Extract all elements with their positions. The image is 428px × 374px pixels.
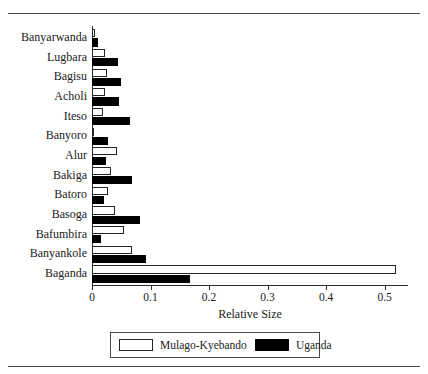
bar-mulago-kyebando-iteso <box>92 108 103 116</box>
bar-mulago-kyebando-banyarwanda <box>92 29 95 37</box>
bar-uganda-batoro <box>92 196 104 204</box>
category-label-basoga: Basoga <box>1 208 87 221</box>
top-rule <box>8 13 420 14</box>
x-tick-label: 0.1 <box>131 291 171 304</box>
x-tick <box>151 285 152 290</box>
bar-uganda-baganda <box>92 275 190 283</box>
bar-mulago-kyebando-acholi <box>92 88 105 96</box>
x-tick <box>92 285 93 290</box>
category-label-alur: Alur <box>1 149 87 162</box>
x-tick-label: 0.4 <box>306 291 346 304</box>
bar-mulago-kyebando-banyoro <box>92 128 94 136</box>
category-label-banyankole: Banyankole <box>1 247 87 260</box>
x-tick-label: 0.2 <box>189 291 229 304</box>
bar-mulago-kyebando-alur <box>92 147 117 155</box>
category-label-bafumbira: Bafumbira <box>1 228 87 241</box>
bottom-rule <box>8 366 420 367</box>
bar-uganda-banyankole <box>92 255 146 263</box>
bar-uganda-iteso <box>92 117 130 125</box>
bar-mulago-kyebando-banyankole <box>92 246 132 254</box>
bar-uganda-alur <box>92 157 106 165</box>
bar-mulago-kyebando-batoro <box>92 187 108 195</box>
bar-uganda-basoga <box>92 216 140 224</box>
category-label-baganda: Baganda <box>1 267 87 280</box>
legend-item-uganda: Uganda <box>247 339 332 351</box>
bar-mulago-kyebando-lugbara <box>92 49 105 57</box>
figure-bar-chart: 00.10.20.30.40.5 BanyarwandaLugbaraBagis… <box>0 0 428 374</box>
x-tick-label: 0.5 <box>365 291 405 304</box>
legend-item-mulago-kyebando: Mulago-Kyebando <box>111 339 247 351</box>
category-label-iteso: Iteso <box>1 110 87 123</box>
category-label-banyoro: Banyoro <box>1 129 87 142</box>
category-label-batoro: Batoro <box>1 188 87 201</box>
x-tick <box>209 285 210 290</box>
bar-mulago-kyebando-basoga <box>92 206 115 214</box>
bar-uganda-lugbara <box>92 58 118 66</box>
legend-label: Uganda <box>296 339 332 351</box>
x-axis-label: Relative Size <box>92 307 408 322</box>
bar-mulago-kyebando-bafumbira <box>92 226 124 234</box>
category-label-acholi: Acholi <box>1 90 87 103</box>
legend: Mulago-KyebandoUganda <box>110 332 320 358</box>
bar-mulago-kyebando-bakiga <box>92 167 111 175</box>
bar-uganda-bafumbira <box>92 235 101 243</box>
bar-uganda-bagisu <box>92 78 121 86</box>
category-label-lugbara: Lugbara <box>1 51 87 64</box>
bar-mulago-kyebando-baganda <box>92 265 396 273</box>
category-label-bagisu: Bagisu <box>1 70 87 83</box>
category-label-bakiga: Bakiga <box>1 169 87 182</box>
bar-uganda-banyarwanda <box>92 38 98 46</box>
x-tick-label: 0.3 <box>248 291 288 304</box>
legend-label: Mulago-Kyebando <box>160 339 247 351</box>
bar-uganda-bakiga <box>92 176 132 184</box>
bar-uganda-banyoro <box>92 137 108 145</box>
category-label-banyarwanda: Banyarwanda <box>1 31 87 44</box>
x-tick-label: 0 <box>72 291 112 304</box>
x-axis-line <box>92 285 408 286</box>
x-tick <box>268 285 269 290</box>
bar-mulago-kyebando-bagisu <box>92 69 107 77</box>
legend-swatch-icon <box>255 339 289 351</box>
bar-uganda-acholi <box>92 97 119 105</box>
x-tick <box>326 285 327 290</box>
x-tick <box>385 285 386 290</box>
legend-swatch-icon <box>119 339 153 351</box>
